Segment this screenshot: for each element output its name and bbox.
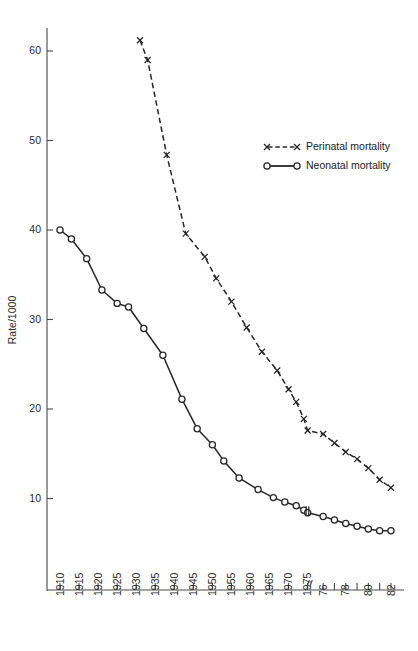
x-axis-tick-label: 1915 — [73, 572, 85, 596]
series-line-neonatal — [60, 230, 391, 531]
data-point-neonatal — [114, 300, 120, 306]
data-point-neonatal — [160, 352, 166, 358]
y-axis-tick-label: 40 — [29, 223, 41, 235]
data-point-neonatal — [388, 528, 394, 534]
legend-item-neonatal: Neonatal mortality — [264, 159, 391, 171]
data-point-perinatal — [388, 485, 394, 491]
series-line-perinatal — [140, 40, 391, 488]
data-point-neonatal — [221, 458, 227, 464]
x-axis-tick-label: 1925 — [111, 572, 123, 596]
data-point-perinatal — [259, 349, 265, 355]
data-point-neonatal — [255, 486, 261, 492]
x-axis-tick-label: 1910 — [54, 572, 66, 596]
data-point-neonatal — [343, 520, 349, 526]
data-point-perinatal — [137, 37, 143, 43]
data-point-neonatal — [125, 304, 131, 310]
data-point-neonatal — [377, 528, 383, 534]
data-point-perinatal — [244, 325, 250, 331]
data-point-neonatal — [282, 499, 288, 505]
data-point-perinatal — [377, 477, 383, 483]
data-point-perinatal — [274, 368, 280, 374]
x-axis-tick-label: 1970 — [282, 572, 294, 596]
y-axis: 102030405060 — [29, 28, 53, 591]
data-point-neonatal — [57, 227, 63, 233]
legend-item-perinatal: Perinatal mortality — [264, 140, 391, 152]
data-point-neonatal — [270, 495, 276, 501]
x-axis-tick-label: 1920 — [92, 572, 104, 596]
y-axis-tick-label: 60 — [29, 44, 41, 56]
legend-label: Neonatal mortality — [306, 159, 391, 171]
x-axis-tick-label: 1965 — [263, 572, 275, 596]
chart-legend: Perinatal mortalityNeonatal mortality — [264, 140, 391, 171]
y-axis-tick-label: 30 — [29, 313, 41, 325]
data-point-neonatal — [194, 426, 200, 432]
data-point-neonatal — [305, 510, 311, 516]
y-axis-tick-label: 10 — [29, 492, 41, 504]
data-point-neonatal — [365, 526, 371, 532]
data-point-perinatal — [213, 275, 219, 281]
data-point-perinatal — [293, 399, 299, 405]
x-axis-tick-label: 1935 — [149, 572, 161, 596]
x-axis-tick-label: 1930 — [130, 572, 142, 596]
data-point-neonatal — [236, 475, 242, 481]
data-point-neonatal — [141, 325, 147, 331]
x-axis-tick-label: 1950 — [206, 572, 218, 596]
x-axis-tick-label: 78 — [339, 584, 351, 596]
data-point-neonatal — [209, 442, 215, 448]
data-point-perinatal — [365, 465, 371, 471]
data-point-neonatal — [354, 523, 360, 529]
data-point-neonatal — [331, 517, 337, 523]
data-point-perinatal — [228, 299, 234, 305]
y-axis-title: Rate/1000 — [6, 296, 18, 345]
x-axis-tick-label: 1955 — [225, 572, 237, 596]
x-axis-tick-label: 76 — [317, 584, 329, 596]
data-point-perinatal — [202, 254, 208, 260]
x-axis: 1910191519201925193019351940194519501955… — [47, 572, 404, 596]
legend-label: Perinatal mortality — [306, 140, 391, 152]
data-point-neonatal — [84, 256, 90, 262]
data-point-neonatal — [179, 396, 185, 402]
x-axis-tick-label: 80 — [362, 584, 374, 596]
data-series-group — [60, 40, 391, 530]
data-point-perinatal — [343, 449, 349, 455]
data-point-perinatal — [354, 456, 360, 462]
x-axis-tick-label: 1960 — [244, 572, 256, 596]
y-axis-tick-label: 20 — [29, 402, 41, 414]
data-point-perinatal — [331, 440, 337, 446]
data-point-neonatal — [68, 236, 74, 242]
x-axis-tick-label: 1945 — [187, 572, 199, 596]
data-point-perinatal — [286, 386, 292, 392]
data-point-neonatal — [99, 287, 105, 293]
x-axis-tick-label: 82 — [385, 584, 397, 596]
y-axis-tick-label: 50 — [29, 134, 41, 146]
x-axis-tick-label: 1940 — [168, 572, 180, 596]
data-point-neonatal — [293, 503, 299, 509]
mortality-rate-line-chart: 102030405060 191019151920192519301935194… — [0, 0, 418, 651]
data-markers-group — [57, 37, 394, 534]
chart-container: 102030405060 191019151920192519301935194… — [0, 0, 418, 651]
data-point-neonatal — [320, 513, 326, 519]
